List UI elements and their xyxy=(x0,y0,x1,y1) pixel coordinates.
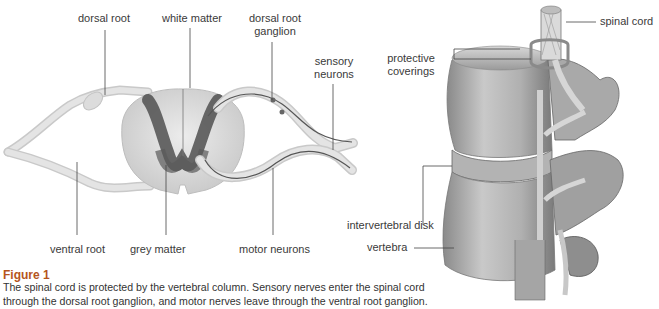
sensory-neurons-label-line1: sensory xyxy=(312,55,356,68)
intervertebral-disk-label: intervertebral disk xyxy=(347,219,434,232)
dorsal-root-ganglion-label-line2: ganglion xyxy=(245,25,305,38)
dorsal-root-ganglion-label: dorsal root ganglion xyxy=(245,12,305,38)
protective-coverings-label-line1: protective xyxy=(383,52,439,65)
motor-neurons-label: motor neurons xyxy=(239,243,310,256)
sensory-neurons-label: sensory neurons xyxy=(312,55,356,81)
figure-caption: The spinal cord is protected by the vert… xyxy=(3,280,443,308)
white-matter-label: white matter xyxy=(162,12,222,25)
spinal-cord-cross-section-illustration xyxy=(0,0,659,309)
ventral-root-label: ventral root xyxy=(50,243,105,256)
vertebra-label: vertebra xyxy=(367,241,407,254)
protective-coverings-label: protective coverings xyxy=(383,52,439,78)
sensory-neurons-label-line2: neurons xyxy=(312,68,356,81)
dorsal-root-ganglion-label-line1: dorsal root xyxy=(245,12,305,25)
grey-matter-label: grey matter xyxy=(130,243,186,256)
spinal-cord-label: spinal cord xyxy=(600,15,653,28)
vertebral-column-illustration xyxy=(443,6,623,300)
protective-coverings-label-line2: coverings xyxy=(383,65,439,78)
dorsal-root-label: dorsal root xyxy=(78,12,130,25)
